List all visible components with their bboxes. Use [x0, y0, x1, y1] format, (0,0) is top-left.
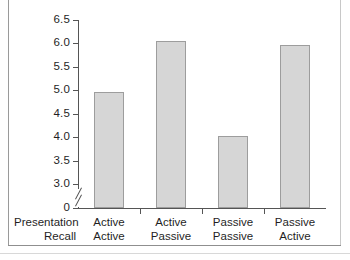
y-axis-tick-label: 3.0 — [53, 178, 70, 190]
y-axis-tick — [73, 161, 79, 162]
x-axis-category-line: Active — [140, 216, 202, 230]
y-axis-tick-label: 3.5 — [53, 155, 70, 167]
x-axis-category-line: Passive — [202, 230, 264, 244]
y-axis-tick-label: 5.0 — [53, 85, 70, 97]
y-axis-tick-label: 4.0 — [53, 131, 70, 143]
y-axis-tick — [73, 114, 79, 115]
y-axis-tick-label: 0 — [63, 202, 70, 214]
y-axis-tick — [73, 67, 79, 68]
x-axis-header-label: Presentation Recall — [14, 216, 76, 243]
x-axis-category-label: ActivePassive — [140, 216, 202, 243]
y-axis-tick-label: 6.0 — [53, 38, 70, 50]
y-axis-tick-label: 6.5 — [53, 14, 70, 26]
x-axis-category-line: Active — [78, 216, 140, 230]
page-edge-line — [0, 253, 350, 254]
x-axis-category-line: Passive — [140, 230, 202, 244]
y-axis-tick — [73, 137, 79, 138]
bar — [156, 41, 186, 208]
figure-border-left — [8, 0, 9, 246]
y-axis-tick — [73, 43, 79, 44]
y-axis-tick — [73, 208, 79, 209]
bar — [280, 45, 310, 208]
x-axis-category-line: Passive — [202, 216, 264, 230]
x-axis-category-line: Passive — [264, 216, 326, 230]
figure-border-right — [340, 0, 341, 246]
x-axis-separator-tick — [202, 208, 203, 214]
x-axis-category-label: ActiveActive — [78, 216, 140, 243]
x-axis-category-label: PassiveActive — [264, 216, 326, 243]
bar — [218, 136, 248, 208]
y-axis-tick — [73, 90, 79, 91]
x-axis-header-line2: Recall — [14, 230, 76, 244]
x-axis-category-label: PassivePassive — [202, 216, 264, 243]
y-axis-tick — [73, 20, 79, 21]
y-axis-break-marker — [72, 188, 86, 208]
x-axis-separator-tick — [264, 208, 265, 214]
x-axis-category-line: Active — [78, 230, 140, 244]
y-axis-tick-label: 5.5 — [53, 61, 70, 73]
y-axis-tick-label: 4.5 — [53, 108, 70, 120]
bar — [94, 92, 124, 208]
y-axis-tick — [73, 184, 79, 185]
x-axis-category-line: Active — [264, 230, 326, 244]
x-axis-separator-tick — [140, 208, 141, 214]
figure-canvas: 6.56.05.55.04.54.03.53.00 ActiveActiveAc… — [0, 0, 350, 260]
plot-area: 6.56.05.55.04.54.03.53.00 ActiveActiveAc… — [78, 16, 326, 212]
figure-border-bottom — [8, 245, 341, 246]
x-axis-header-line1: Presentation — [14, 216, 76, 230]
